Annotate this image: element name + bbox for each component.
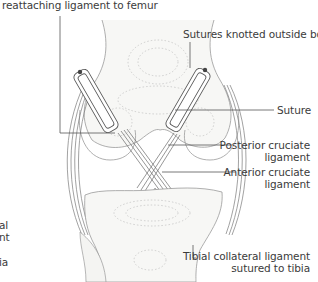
label-posterior-line1: Posterior cruciate bbox=[220, 139, 310, 151]
label-left-fragment-3: ia bbox=[0, 256, 8, 268]
label-tibial-line1: Tibial collateral ligament bbox=[183, 250, 310, 262]
label-tibial-collateral: Tibial collateral ligament sutured to ti… bbox=[183, 250, 310, 274]
label-posterior-line2: ligament bbox=[220, 151, 310, 163]
label-posterior-cruciate: Posterior cruciate ligament bbox=[220, 139, 310, 163]
label-left-fragment-2: nt bbox=[0, 231, 10, 243]
label-sutures-knotted: Sutures knotted outside bone bbox=[183, 28, 318, 40]
label-left-fragment-1: al bbox=[0, 219, 8, 231]
label-tibial-line2: sutured to tibia bbox=[183, 262, 310, 274]
label-anterior-line2: ligament bbox=[224, 178, 310, 190]
label-anterior-line1: Anterior cruciate bbox=[224, 166, 310, 178]
label-reattaching-ligament: reattaching ligament to femur bbox=[2, 0, 158, 11]
label-anterior-cruciate: Anterior cruciate ligament bbox=[224, 166, 310, 190]
label-suture: Suture bbox=[277, 104, 311, 116]
